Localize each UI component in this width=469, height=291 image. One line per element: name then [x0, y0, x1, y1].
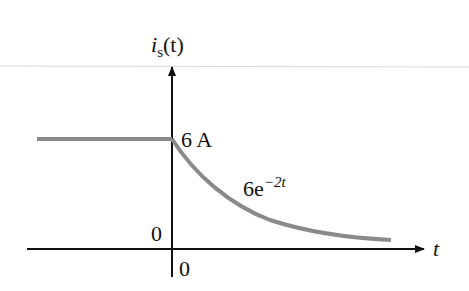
y-origin-label: 0: [151, 221, 162, 246]
decay-expression-label: 6e−2t: [243, 174, 286, 201]
x-axis-label: t: [433, 236, 440, 261]
y-axis-label: is(t): [151, 32, 184, 60]
initial-value-label: 6 A: [181, 127, 212, 152]
divider-line: [0, 66, 469, 67]
x-origin-label: 0: [179, 256, 190, 281]
waveform-chart: is(t) t 6 A 6e−2t 0 0: [0, 0, 469, 291]
